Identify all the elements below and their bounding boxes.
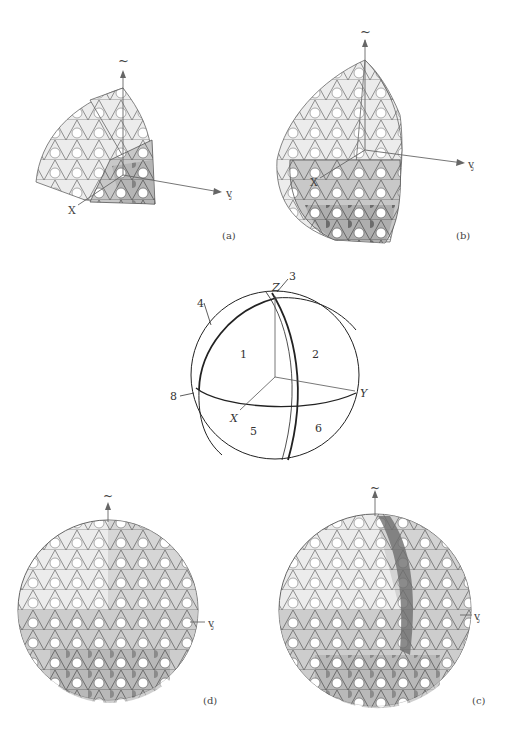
region-2-label: 2	[312, 348, 319, 361]
panel-a: ~ ᶌ X (a)	[0, 0, 260, 260]
y-axis-label: Y	[360, 387, 369, 400]
caption-c: (c)	[472, 695, 485, 706]
region-5-label: 5	[250, 425, 257, 438]
panel-b: ~ ᶌ X (b)	[260, 0, 511, 260]
half-shell-figure: ~ ᶌ X	[260, 0, 511, 260]
z-axis-label: ~	[370, 481, 380, 495]
callout-3-label: 3	[289, 270, 296, 283]
z-axis-label: Z	[271, 281, 280, 294]
callout-8-label: 8	[170, 390, 177, 403]
caption-b: (b)	[456, 230, 470, 241]
full-sphere-figure: ~ ᶌ	[0, 450, 260, 730]
panel-d: ~ ᶌ (d)	[0, 450, 260, 730]
sphere-partition-diagram: Z Y X 1 2 5 6 3 4 8	[160, 260, 380, 470]
y-axis-label: ᶌ	[226, 186, 232, 200]
caption-d: (d)	[203, 695, 217, 706]
exploded-sphere-figure: ~ ᶌ	[260, 450, 511, 730]
region-6-label: 6	[315, 422, 322, 435]
y-axis-label: ᶌ	[474, 609, 480, 623]
x-axis-label: X	[229, 412, 239, 425]
x-axis-label: X	[310, 176, 318, 189]
panel-c: ~ ᶌ (c)	[260, 450, 511, 730]
y-axis-label: ᶌ	[208, 616, 214, 630]
z-axis-label: ~	[118, 53, 129, 68]
x-axis-label: X	[68, 204, 76, 217]
z-axis-label: ~	[103, 489, 113, 503]
region-1-label: 1	[240, 348, 247, 361]
caption-a: (a)	[222, 230, 236, 241]
octant-shell-figure: ~ ᶌ X	[0, 0, 260, 260]
panel-center: Z Y X 1 2 5 6 3 4 8	[160, 260, 380, 470]
z-axis-label: ~	[360, 24, 371, 39]
y-axis-label: ᶌ	[468, 157, 474, 171]
callout-4-label: 4	[197, 297, 204, 310]
